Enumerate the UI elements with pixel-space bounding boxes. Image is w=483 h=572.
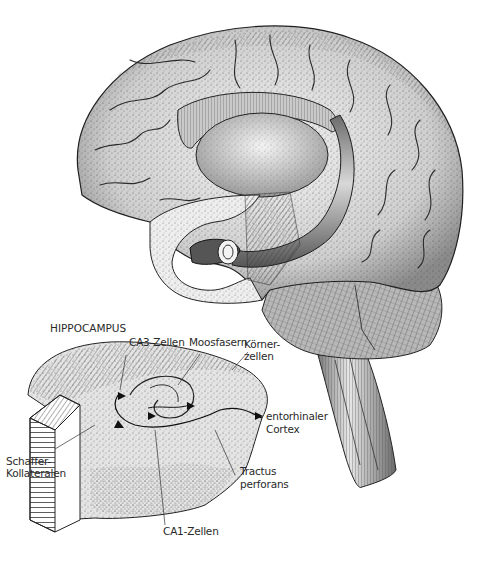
label-tractus-perforans-line1: Tractus — [240, 465, 276, 477]
label-moosfasern: Moosfasern — [189, 336, 247, 348]
brainstem — [318, 350, 396, 487]
label-koernerzellen-line1: Körner- — [244, 338, 280, 350]
label-ca1-zellen: CA1-Zellen — [163, 525, 219, 537]
label-entorhinaler-cortex-line1: entorhinaler — [266, 410, 328, 422]
label-schaffer-kollateralen-line1: Schaffer- — [6, 455, 51, 467]
hippocampus-inset — [28, 342, 267, 532]
inset-title: HIPPOCAMPUS — [50, 322, 126, 334]
label-koernerzellen-line2: zellen — [244, 350, 274, 362]
label-schaffer-kollateralen-line2: Kollateralen — [6, 467, 66, 479]
label-tractus-perforans-line2: perforans — [240, 478, 289, 490]
thalamus — [196, 113, 328, 197]
label-entorhinaler-cortex-line2: Cortex — [266, 423, 299, 435]
label-ca3-zellen: CA3-Zellen — [129, 336, 185, 348]
